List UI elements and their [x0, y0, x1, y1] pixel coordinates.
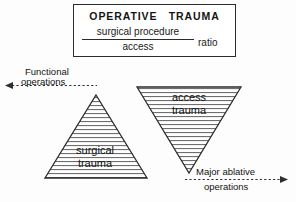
surgical-trauma-label: surgical trauma — [52, 144, 138, 169]
access-trauma-label-line2: trauma — [146, 104, 232, 117]
formula-denominator: access — [82, 41, 194, 53]
fraction-bar — [82, 39, 194, 40]
right-arrow-icon — [184, 173, 290, 185]
ratio-label: ratio — [198, 37, 217, 48]
diagram-canvas: OPERATIVE TRAUMA surgical procedure acce… — [0, 0, 296, 202]
surgical-trauma-label-line1: surgical — [52, 144, 138, 157]
title-box: OPERATIVE TRAUMA surgical procedure acce… — [73, 4, 236, 57]
formula-numerator: surgical procedure — [82, 26, 194, 38]
ratio-formula: surgical procedure access — [82, 26, 194, 53]
page-title: OPERATIVE TRAUMA — [74, 10, 235, 22]
surgical-trauma-label-line2: trauma — [52, 157, 138, 170]
left-arrow-icon — [4, 79, 98, 91]
access-trauma-label: access trauma — [146, 91, 232, 116]
access-trauma-label-line1: access — [146, 91, 232, 104]
